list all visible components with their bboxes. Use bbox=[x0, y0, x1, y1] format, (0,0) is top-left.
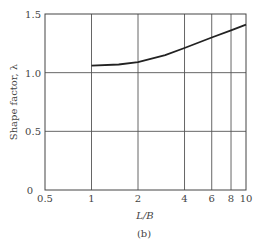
y-tick-label: 1.5 bbox=[25, 9, 41, 20]
grid-lines bbox=[45, 14, 246, 190]
chart-caption: (b) bbox=[137, 228, 151, 239]
y-tick-label: 0 bbox=[27, 185, 33, 196]
x-tick-label: 2 bbox=[135, 193, 141, 204]
x-tick-label: 4 bbox=[181, 193, 187, 204]
x-tick-label: 6 bbox=[209, 193, 215, 204]
y-tick-label: 1.0 bbox=[25, 68, 41, 79]
x-tick-label: 8 bbox=[228, 193, 234, 204]
y-axis-label: Shape factor, λ bbox=[8, 63, 19, 140]
x-axis-label: L/B bbox=[135, 210, 153, 221]
shape-factor-curve bbox=[92, 25, 247, 66]
chart: 0.51246810 00.51.01.5 L/B (b) Shape fact… bbox=[0, 0, 265, 245]
x-tick-labels: 0.51246810 bbox=[37, 193, 252, 204]
y-tick-labels: 00.51.01.5 bbox=[25, 9, 41, 196]
plot-frame bbox=[45, 14, 246, 190]
y-tick-label: 0.5 bbox=[25, 126, 41, 137]
x-tick-label: 1 bbox=[88, 193, 94, 204]
x-tick-label: 0.5 bbox=[37, 193, 53, 204]
x-tick-label: 10 bbox=[240, 193, 253, 204]
